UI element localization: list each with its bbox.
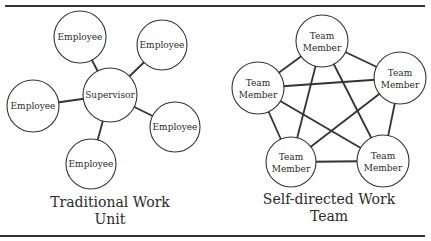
employee-label: Employee: [58, 32, 103, 42]
traditional-caption-line1: Traditional Work: [10, 194, 210, 211]
team-member-label-line1: Team: [371, 151, 396, 161]
employee-label: Employee: [140, 40, 185, 50]
self-directed-team-caption: Self-directed Work Team: [229, 191, 429, 225]
supervisor-node: Supervisor: [83, 68, 137, 122]
team-member-label-line2: Member: [381, 80, 420, 90]
team-member-label-line1: Team: [388, 68, 413, 78]
employee-node: Employee: [137, 20, 187, 70]
team-member-label-line2: Member: [239, 90, 278, 100]
team-member-label-line2: Member: [303, 43, 342, 53]
team-member-label-line1: Team: [246, 78, 271, 88]
employee-label: Employee: [11, 101, 56, 111]
employee-node: Employee: [7, 80, 59, 132]
employee-node: Employee: [54, 11, 106, 63]
traditional-unit-nodes: SupervisorEmployeeEmployeeEmployeeEmploy…: [7, 11, 200, 189]
team-caption-line1: Self-directed Work: [229, 191, 429, 208]
supervisor-label: Supervisor: [85, 90, 135, 100]
team-member-label-line2: Member: [364, 163, 403, 173]
team-member-label-line2: Member: [272, 164, 311, 174]
employee-label: Employee: [69, 159, 114, 169]
team-member-node: TeamMember: [232, 62, 284, 114]
team-member-node: TeamMember: [266, 137, 316, 187]
employee-label: Employee: [153, 122, 198, 132]
team-member-label-line1: Team: [310, 31, 335, 41]
team-member-node: TeamMember: [357, 135, 409, 187]
employee-node: Employee: [150, 102, 200, 152]
team-member-node: TeamMember: [374, 52, 426, 104]
employee-node: Employee: [66, 139, 116, 189]
traditional-unit-caption: Traditional Work Unit: [10, 194, 210, 228]
traditional-caption-line2: Unit: [10, 211, 210, 228]
team-caption-line2: Team: [229, 208, 429, 225]
team-member-label-line1: Team: [279, 152, 304, 162]
bottom-rule: [0, 235, 425, 237]
team-member-node: TeamMember: [296, 15, 348, 67]
